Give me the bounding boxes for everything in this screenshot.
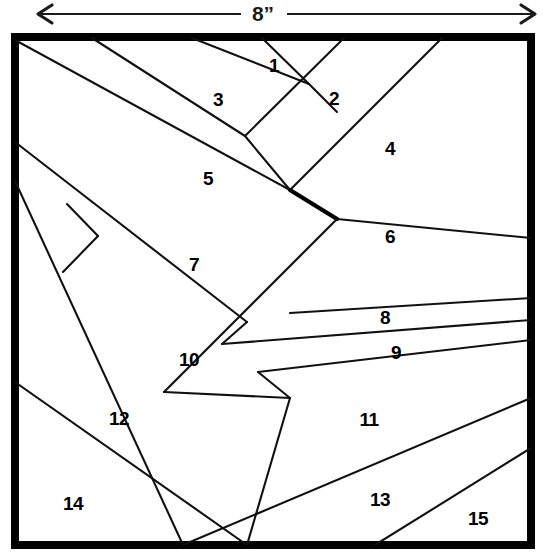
piece-label-4: 4 <box>385 138 396 159</box>
piece-label-13: 13 <box>370 489 390 510</box>
block-outer-border <box>15 37 531 545</box>
piece-label-6: 6 <box>385 226 395 247</box>
piece-label-9: 9 <box>391 342 401 363</box>
dimension-label: 8” <box>252 2 274 25</box>
piece-label-1: 1 <box>269 55 280 76</box>
quilt-block-diagram: 8” <box>0 0 548 560</box>
piece-label-15: 15 <box>468 508 489 529</box>
piece-label-11: 11 <box>359 409 379 430</box>
piece-label-10: 10 <box>179 349 199 370</box>
piece-label-12: 12 <box>109 408 129 429</box>
piece-label-8: 8 <box>380 307 390 328</box>
piece-label-2: 2 <box>329 88 339 109</box>
dimension-arrow-8in: 8” <box>38 2 535 25</box>
piece-label-3: 3 <box>213 89 223 110</box>
piece-label-5: 5 <box>203 168 214 189</box>
piece-label-7: 7 <box>189 254 199 275</box>
piece-label-14: 14 <box>63 493 84 514</box>
diagram-page: 8” <box>0 0 548 560</box>
